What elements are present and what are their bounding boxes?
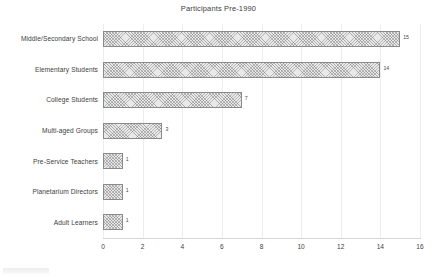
y-axis-category-labels: Middle/Secondary SchoolElementary Studen… (0, 24, 98, 238)
bar-value-label: 14 (383, 65, 389, 71)
category-label: Elementary Students (0, 66, 98, 73)
bar[interactable] (103, 92, 242, 108)
bar-value-label: 1 (126, 187, 129, 193)
x-axis-tick-labels: 0246810121416 (103, 243, 420, 257)
bar-row: 14 (103, 55, 420, 86)
cropped-caption-artifact (3, 268, 49, 274)
x-axis-line (103, 238, 421, 239)
x-tick-label: 6 (220, 243, 224, 250)
bar-value-label: 7 (245, 95, 248, 101)
category-label: Multi-aged Groups (0, 127, 98, 134)
category-label: Middle/Secondary School (0, 35, 98, 42)
x-tick-label: 8 (260, 243, 264, 250)
bar-row: 15 (103, 24, 420, 55)
bar[interactable] (103, 214, 123, 230)
category-label: Pre-Service Teachers (0, 158, 98, 165)
category-label: Planetarium Directors (0, 188, 98, 195)
bar-row: 3 (103, 116, 420, 147)
bar-value-label: 1 (126, 156, 129, 162)
chart-title: Participants Pre-1990 (0, 4, 437, 13)
x-tick-label: 14 (377, 243, 384, 250)
bar-value-label: 1 (126, 217, 129, 223)
category-label: College Students (0, 96, 98, 103)
x-tick-label: 16 (416, 243, 423, 250)
bar-chart: Participants Pre-1990 151473111 Middle/S… (0, 0, 437, 277)
bar-row: 1 (103, 146, 420, 177)
plot-area: 151473111 (103, 24, 420, 238)
category-label: Adult Learners (0, 219, 98, 226)
bar-row: 1 (103, 207, 420, 238)
x-tick-label: 12 (337, 243, 344, 250)
bar-value-label: 3 (165, 126, 168, 132)
bar[interactable] (103, 153, 123, 169)
x-tick-label: 10 (297, 243, 304, 250)
x-tick-label: 2 (141, 243, 145, 250)
bar-value-label: 15 (403, 34, 409, 40)
bar-row: 7 (103, 85, 420, 116)
bar-row: 1 (103, 177, 420, 208)
bar[interactable] (103, 184, 123, 200)
bar[interactable] (103, 62, 380, 78)
bar[interactable] (103, 123, 162, 139)
x-tick-label: 0 (101, 243, 105, 250)
x-tick-label: 4 (180, 243, 184, 250)
bar[interactable] (103, 31, 400, 47)
gridline (420, 24, 421, 238)
